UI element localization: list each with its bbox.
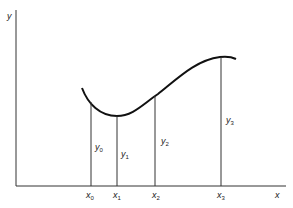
ordinate-label-y1: y1 bbox=[121, 150, 129, 160]
ordinate-label-y0: y0 bbox=[95, 143, 103, 153]
y-axis-label: y bbox=[7, 12, 12, 21]
function-curve bbox=[82, 57, 236, 116]
x-axis-label: x bbox=[275, 191, 280, 200]
ordinate-label-y2: y2 bbox=[161, 137, 169, 147]
function-plot bbox=[0, 0, 293, 208]
ordinate-label-y3: y3 bbox=[226, 116, 234, 126]
tick-label-x0: x0 bbox=[86, 191, 94, 201]
tick-label-x3: x3 bbox=[217, 191, 225, 201]
tick-label-x2: x2 bbox=[152, 191, 160, 201]
tick-label-x1: x1 bbox=[113, 191, 121, 201]
